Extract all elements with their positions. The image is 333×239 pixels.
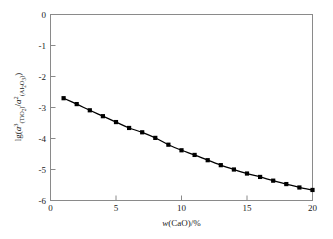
plot-frame [51, 15, 313, 201]
data-point [75, 102, 79, 106]
x-tick-label-15: 15 [243, 203, 253, 213]
data-point [271, 179, 275, 183]
data-point [88, 108, 92, 112]
y-axis-title-paren-close: ) [13, 73, 23, 76]
data-point [153, 136, 157, 140]
data-series-markers [62, 96, 315, 192]
x-tick-label-5: 5 [114, 203, 119, 213]
y-axis-title: lg(a3(TiO2)/a2(Al2O3)) [12, 73, 27, 141]
data-point [310, 188, 314, 192]
x-tick-label-0: 0 [48, 203, 53, 213]
data-point [179, 148, 183, 152]
data-point [127, 126, 131, 130]
y-tick-label-4: -4 [39, 134, 47, 144]
data-point [219, 163, 223, 167]
y-tick-label-1: -1 [39, 41, 47, 51]
data-point [206, 158, 210, 162]
y-tick-label-2: -2 [39, 72, 47, 82]
data-point [166, 143, 170, 147]
data-series-line [64, 98, 313, 190]
x-axis-title-species: CaO [171, 218, 188, 228]
chart-svg: 0 -1 -2 -3 -4 -5 -6 0 5 10 15 20 w(CaO)/… [0, 0, 333, 239]
data-point [101, 114, 105, 118]
y-tick-label-6: -6 [39, 196, 47, 206]
y-tick-label-3: -3 [39, 103, 47, 113]
y-tick-label-5: -5 [39, 165, 47, 175]
x-axis-title: w(CaO)/% [162, 218, 201, 228]
data-series-group [62, 96, 315, 192]
data-point [193, 153, 197, 157]
x-tick-label-10: 10 [177, 203, 187, 213]
data-point [140, 130, 144, 134]
data-point [114, 120, 118, 124]
data-point [245, 171, 249, 175]
x-axis-tick-labels: 0 5 10 15 20 [48, 203, 317, 213]
y-axis-tick-labels: 0 -1 -2 -3 -4 -5 -6 [39, 10, 47, 206]
y-axis-ticks [51, 15, 56, 201]
chart-figure: 0 -1 -2 -3 -4 -5 -6 0 5 10 15 20 w(CaO)/… [0, 0, 333, 239]
data-point [62, 96, 66, 100]
x-axis-ticks [51, 196, 313, 201]
data-point [232, 167, 236, 171]
y-tick-label-0: 0 [42, 10, 47, 20]
x-axis-title-per-percent: /% [191, 218, 202, 228]
data-point [297, 185, 301, 189]
data-point [284, 182, 288, 186]
x-tick-label-20: 20 [308, 203, 318, 213]
y-axis-title-a1-sub: TiO [18, 111, 25, 121]
data-point [258, 175, 262, 179]
